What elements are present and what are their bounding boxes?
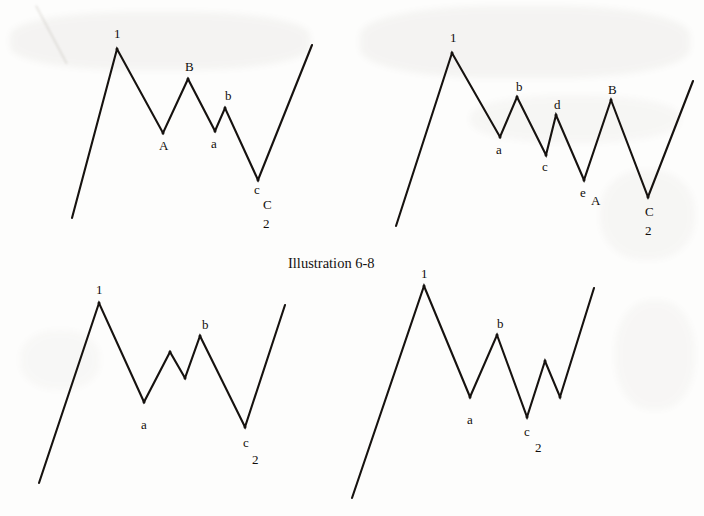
wave-label-1: 1 [421,267,428,280]
wave-vertex-dot [526,416,529,419]
wave-label-b: b [497,317,504,330]
figure-caption: Illustration 6-8 [288,255,375,272]
wave-vertex-dot [423,285,426,288]
wave-vertex-dot [559,396,562,399]
illustration-page: 1ABabcC21abcdeABC21abc21abc2 Illustratio… [0,0,704,516]
wave-vertex-dot [496,334,499,337]
wave-label-a: a [467,413,473,426]
wave-vertex-dot [544,360,547,363]
wave-vertex-dot [469,396,472,399]
wave-polyline [352,286,594,498]
wave-label-c: c [524,425,530,438]
wave-label-2: 2 [535,441,542,454]
